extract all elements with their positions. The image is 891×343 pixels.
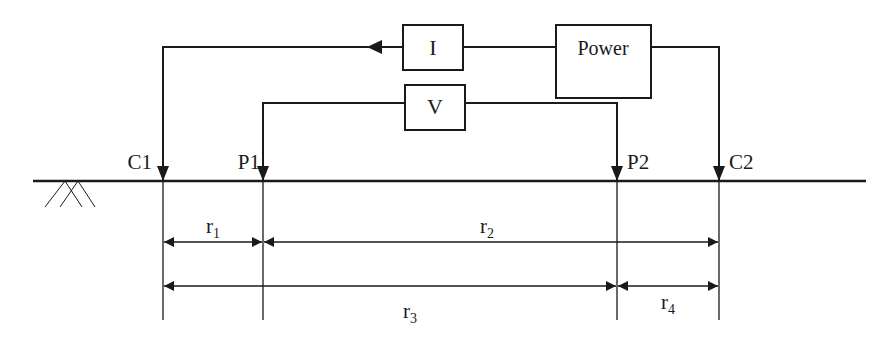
electrode-label-p2: P2: [627, 150, 649, 174]
electrode-label-c2: C2: [729, 150, 754, 174]
electrode-p2-arrow-icon: [611, 166, 623, 181]
electrode-c1-arrow-icon: [157, 166, 169, 181]
current-direction-arrow-icon: [367, 40, 382, 54]
electrode-label-c1: C1: [127, 150, 152, 174]
current-meter-label: I: [429, 35, 436, 60]
distance-label-r2: r2: [480, 214, 494, 241]
electrode-extension-lines: [163, 181, 719, 320]
electrode-c2-arrow-icon: [713, 166, 725, 181]
four-electrode-diagram: I V Power C1 P1 P2 C2 r1 r2 r3 r4: [0, 0, 891, 343]
distance-label-r3: r3: [403, 299, 417, 326]
ground-hatch-icon: [45, 181, 95, 207]
electrode-label-p1: P1: [238, 150, 260, 174]
power-source-label: Power: [577, 37, 628, 59]
voltage-meter-label: V: [427, 94, 443, 119]
power-source-box: [556, 25, 651, 98]
distance-label-r4: r4: [661, 290, 675, 317]
distance-label-r1: r1: [206, 214, 220, 241]
